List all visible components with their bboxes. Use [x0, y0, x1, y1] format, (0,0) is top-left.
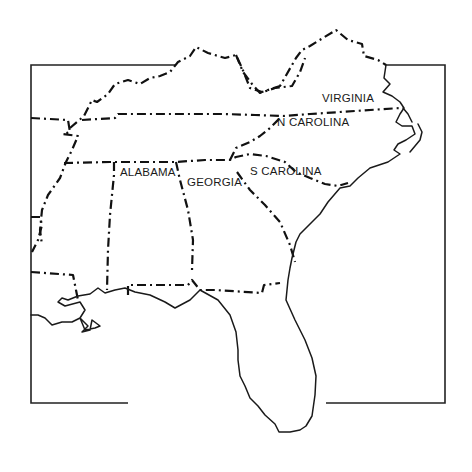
- map-canvas: [0, 0, 472, 472]
- state-label-georgia: GEORGIA: [187, 176, 242, 188]
- state-label-virginia: VIRGINIA: [322, 92, 374, 104]
- state-label-alabama: ALABAMA: [120, 166, 176, 178]
- state-label-n-carolina: N CAROLINA: [277, 116, 349, 128]
- state-label-s-carolina: S CAROLINA: [250, 165, 322, 177]
- state-borders: [31, 30, 400, 300]
